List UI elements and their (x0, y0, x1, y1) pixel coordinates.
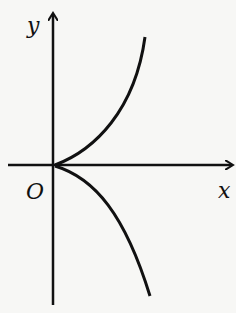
origin-label: O (26, 179, 44, 204)
y-axis-label: y (26, 13, 40, 38)
upper-curve (55, 37, 145, 165)
graph: y O x (0, 0, 236, 313)
x-axis-label: x (218, 178, 231, 203)
lower-curve (55, 166, 150, 296)
